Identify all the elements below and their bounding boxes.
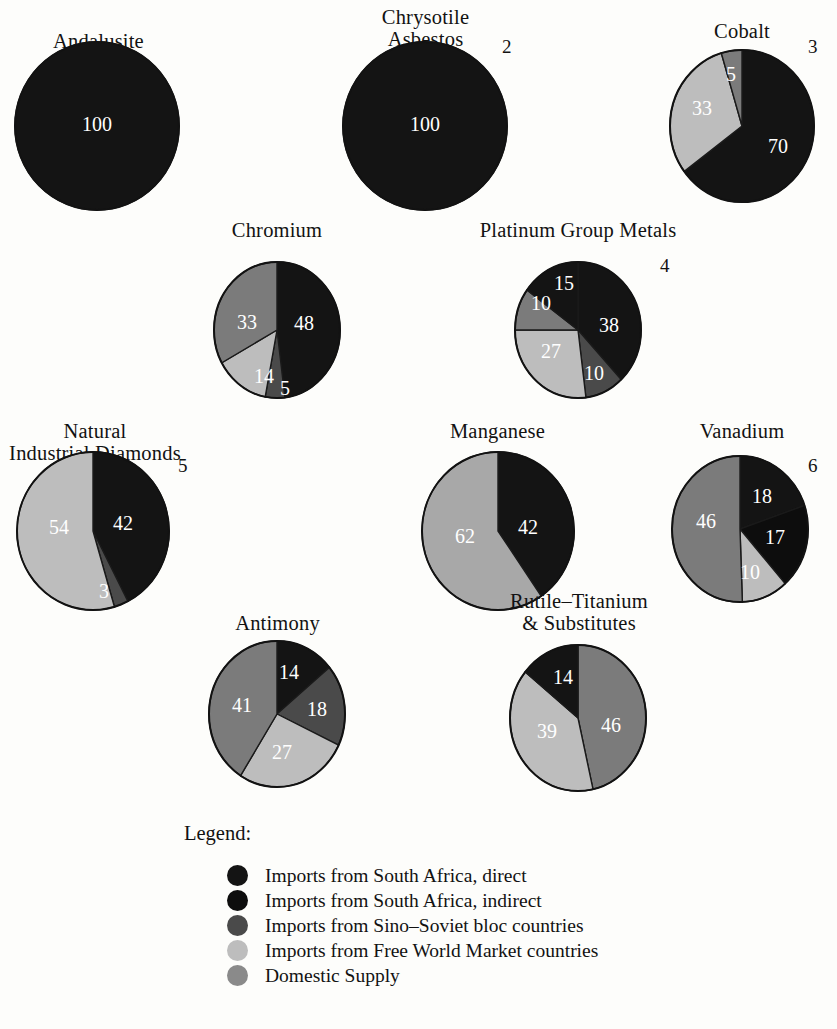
footnote-marker: 2 [502, 36, 512, 58]
slice-value-label: 17 [765, 526, 785, 548]
pie-slice [578, 262, 641, 380]
legend-swatch-icon [227, 915, 248, 936]
chart-title: Cobalt [672, 20, 812, 42]
legend-item: Imports from Sino–Soviet bloc countries [227, 913, 598, 938]
pie-area: 14182741 [205, 637, 349, 791]
legend-swatch-icon [227, 865, 248, 886]
slice-value-label: 54 [49, 516, 69, 538]
pie-outline [209, 641, 345, 787]
chart-title: Rutile–Titanium & Substitutes [470, 590, 688, 634]
pie-area: 4262 [418, 448, 578, 614]
legend-label: Imports from South Africa, indirect [265, 890, 542, 911]
slice-value-label: 5 [280, 377, 290, 399]
chart-title: Antimony [205, 612, 350, 634]
chart-title: Platinum Group Metals [452, 219, 704, 241]
pie-slice [222, 330, 277, 397]
pie-area: 100 [339, 38, 511, 214]
slice-value-label: 10 [740, 561, 760, 583]
pie-svg: 4262 [418, 448, 578, 614]
slice-value-label: 14 [254, 365, 274, 387]
slice-value-label: 42 [518, 516, 538, 538]
legend-swatch-icon [227, 890, 248, 911]
pie-slice [498, 452, 574, 596]
pie-slice [510, 672, 593, 791]
pie-outline [510, 645, 646, 791]
chart-title: Natural Industrial Diamonds [0, 420, 190, 464]
slice-value-label: 33 [692, 97, 712, 119]
slice-value-label: 18 [752, 485, 772, 507]
slice-value-label: 15 [554, 272, 574, 294]
chart-title: Chrysotile Asbestos [343, 6, 508, 50]
legend-swatch-icon [227, 940, 248, 961]
legend-item: Domestic Supply [227, 963, 598, 988]
slice-value-label: 62 [455, 525, 475, 547]
chart-title: Chromium [202, 219, 352, 241]
slice-value-label: 18 [307, 698, 327, 720]
pie-svg: 14182741 [205, 637, 349, 791]
pie-outline [672, 456, 808, 602]
pie-slice [740, 529, 785, 602]
slice-value-label: 14 [279, 661, 299, 683]
pie-outline [670, 50, 814, 202]
slice-value-label: 39 [537, 720, 557, 742]
footnote-marker: 4 [660, 255, 670, 277]
legend-label: Imports from Sino–Soviet bloc countries [265, 915, 583, 936]
pie-slice [265, 330, 285, 398]
pie-slice [670, 53, 742, 171]
pie-slice [515, 290, 578, 330]
pie-svg: 100 [339, 38, 511, 214]
legend-item: Imports from Free World Market countries [227, 938, 598, 963]
legend-rows: Imports from South Africa, directImports… [227, 863, 598, 988]
slice-value-label: 27 [272, 741, 292, 763]
slice-value-label: 48 [294, 312, 314, 334]
legend: Legend: Imports from South Africa, direc… [180, 822, 598, 988]
pie-slice [214, 262, 277, 363]
footnote-marker: 5 [178, 455, 188, 477]
pie-outline [515, 262, 641, 398]
pie-svg: 100 [11, 38, 183, 214]
pie-svg: 3810271015 [511, 258, 645, 402]
pie-slice [241, 714, 339, 787]
pie-slice [721, 50, 742, 126]
pie-svg: 463914 [506, 641, 650, 795]
pie-area: 42354 [13, 448, 173, 614]
slice-value-label: 42 [113, 512, 133, 534]
pie-svg: 42354 [13, 448, 173, 614]
pie-slice [740, 505, 808, 583]
slice-value-label: 14 [553, 666, 573, 688]
pie-area: 100 [11, 38, 183, 214]
pie-area: 70335 [666, 46, 818, 206]
pie-svg: 18171046 [668, 452, 812, 606]
pie-slice [15, 42, 179, 210]
pie-area: 3810271015 [511, 258, 645, 402]
pie-outline [17, 452, 169, 610]
footnote-marker: 6 [808, 455, 818, 477]
pie-outline [343, 42, 507, 210]
chart-title: Andalusite [16, 30, 181, 52]
slice-value-label: 27 [541, 340, 561, 362]
pie-slice [17, 452, 114, 610]
slice-value-label: 100 [82, 113, 112, 135]
pie-area: 4851433 [210, 258, 344, 402]
pie-area: 463914 [506, 641, 650, 795]
pie-slice [525, 645, 578, 718]
pie-slice [277, 262, 340, 397]
pie-slice [578, 645, 646, 789]
chart-title: Manganese [415, 420, 580, 442]
slice-value-label: 70 [768, 135, 788, 157]
pie-slice [277, 641, 329, 714]
slice-value-label: 33 [237, 311, 257, 333]
slice-value-label: 5 [726, 63, 736, 85]
pie-outline [214, 262, 340, 398]
slice-value-label: 38 [599, 314, 619, 336]
legend-item: Imports from South Africa, indirect [227, 888, 598, 913]
pie-slice [527, 262, 578, 330]
slice-value-label: 10 [584, 362, 604, 384]
pie-area: 18171046 [668, 452, 812, 606]
footnote-marker: 3 [808, 36, 818, 58]
pie-slice [422, 452, 541, 610]
pie-slice [93, 452, 169, 601]
slice-value-label: 46 [601, 714, 621, 736]
pie-svg: 70335 [666, 46, 818, 206]
pie-slice [93, 531, 128, 607]
